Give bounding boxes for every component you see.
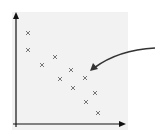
- scatter-diagram: [0, 0, 157, 140]
